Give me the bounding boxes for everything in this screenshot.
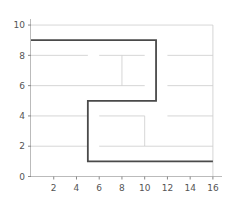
x-tick-label: 10	[139, 183, 151, 193]
y-tick-label: 0	[19, 172, 25, 182]
x-tick-label: 4	[74, 183, 80, 193]
x-tick-label: 6	[96, 183, 102, 193]
x-tick-label: 8	[119, 183, 125, 193]
chart-figure: 0246810 246810121416	[0, 0, 241, 202]
y-tick-label: 8	[19, 51, 25, 61]
x-tick-label: 2	[51, 183, 57, 193]
y-tick-label: 10	[14, 20, 26, 30]
maze-path-plot: 0246810 246810121416	[0, 0, 241, 202]
x-tick-label: 14	[184, 183, 196, 193]
y-tick-label: 6	[19, 81, 25, 91]
x-tick-label: 16	[207, 183, 219, 193]
y-tick-label: 4	[19, 111, 25, 121]
y-tick-label: 2	[19, 141, 25, 151]
x-tick-label: 12	[162, 183, 173, 193]
